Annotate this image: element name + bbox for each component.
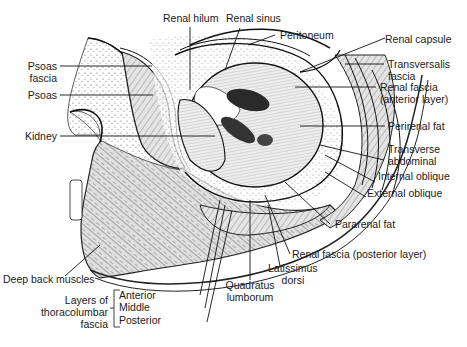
label-renal-fascia-anterior: Renal fascia (anterior layer) (380, 81, 448, 105)
label-perirenal-fat: Perirenal fat (388, 120, 445, 132)
label-renal-fascia-posterior: Renal fascia (posterior layer) (292, 248, 426, 260)
label-transverse-abdominal: Transverse abdominal (388, 143, 440, 167)
label-peritoneum: Peritoneum (280, 29, 334, 41)
label-renal-capsule: Renal capsule (385, 33, 452, 45)
label-anterior: Anterior (119, 289, 156, 301)
label-internal-oblique: Internal oblique (378, 170, 450, 182)
label-pararenal-fat: Pararenal fat (335, 218, 395, 230)
label-renal-sinus: Renal sinus (226, 12, 281, 24)
label-posterior: Posterior (119, 314, 161, 326)
label-middle: Middle (119, 301, 150, 313)
label-external-oblique: External oblique (367, 187, 442, 199)
label-layers-thoracolumbar-fascia: Layers of thoracolumbar fascia (20, 294, 108, 330)
label-psoas-fascia: Psoas fascia (0, 60, 57, 84)
artist-stamp (70, 180, 82, 220)
label-transversalis-fascia: Transversalis fascia (388, 58, 450, 82)
label-renal-hilum: Renal hilum (163, 12, 218, 24)
label-quadratus-lumborum: Quadratus lumborum (220, 279, 280, 303)
label-psoas: Psoas (0, 89, 57, 101)
label-kidney: Kidney (0, 130, 57, 142)
label-deep-back-muscles: Deep back muscles (3, 273, 95, 285)
